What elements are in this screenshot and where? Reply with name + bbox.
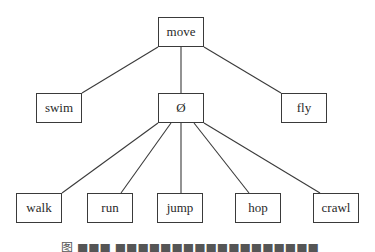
node-run: run	[87, 193, 133, 223]
edge-null-run	[121, 123, 171, 193]
figure-caption: 图 ■■■ ■■■■■■■■■■■■■■■■■■	[60, 238, 320, 252]
node-move: move	[158, 17, 204, 47]
node-swim: swim	[36, 93, 82, 123]
edge-move-swim	[82, 47, 158, 93]
edge-null-walk	[62, 123, 158, 193]
node-hop: hop	[235, 193, 281, 223]
node-jump: jump	[157, 193, 203, 223]
edge-move-fly	[204, 47, 281, 93]
node-fly: fly	[281, 93, 327, 123]
node-null: Ø	[158, 93, 204, 123]
node-walk: walk	[16, 193, 62, 223]
node-crawl: crawl	[313, 193, 359, 223]
